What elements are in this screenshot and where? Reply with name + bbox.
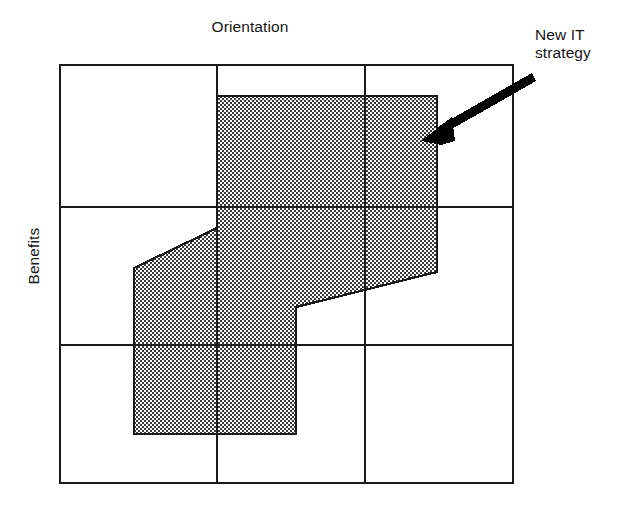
y-axis-label-benefits: Benefits — [25, 206, 43, 306]
chart-title-orientation: Orientation — [0, 18, 500, 36]
callout-label-new-it-strategy: New IT strategy — [535, 26, 621, 63]
figure-root: Orientation Benefits New IT strategy — [0, 0, 625, 516]
callout-line-1: New IT — [535, 26, 621, 44]
callout-line-2: strategy — [535, 44, 621, 62]
matrix-diagram-svg — [0, 0, 625, 516]
shaded-region-new-it-strategy — [134, 96, 437, 434]
